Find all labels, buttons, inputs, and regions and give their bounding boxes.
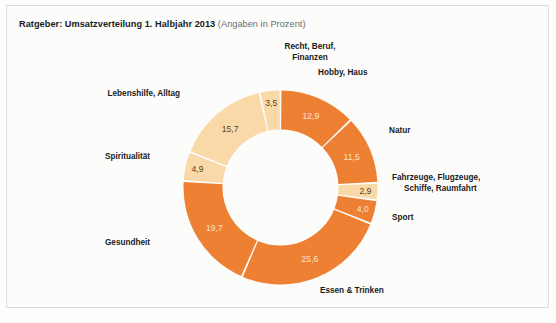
slice-label-spiritualitaet: Spiritualität	[40, 152, 150, 163]
slice-label-natur-line1: Natur	[389, 126, 410, 137]
slice-label-spiritualitaet-line1: Spiritualität	[40, 152, 150, 163]
slice-value-label: 25,6	[302, 254, 319, 264]
slice-value-label: 4,9	[192, 164, 204, 174]
donut-hole	[223, 130, 338, 245]
slice-label-natur: Natur	[389, 126, 410, 137]
slice-label-sport-line1: Sport	[392, 213, 413, 224]
slice-label-hobby-haus: Hobby, Haus	[318, 68, 367, 79]
slice-label-essen-line1: Essen & Trinken	[320, 286, 384, 297]
slice-value-label: 11,5	[344, 152, 360, 162]
slice-value-label: 12,9	[302, 111, 319, 121]
slice-value-label: 19,7	[206, 223, 223, 233]
chart-page: Ratgeber: Umsatzverteilung 1. Halbjahr 2…	[0, 0, 556, 323]
slice-label-essen: Essen & Trinken	[320, 286, 384, 297]
slice-value-label: 2,9	[359, 186, 371, 196]
slice-value-label: 15,7	[222, 124, 239, 134]
slice-label-gesundheit: Gesundheit	[40, 238, 150, 249]
slice-label-fahrzeuge-line2: Schiffe, Raumfahrt	[392, 184, 480, 195]
slice-label-sport: Sport	[392, 213, 413, 224]
slice-value-label: 3,5	[265, 98, 277, 108]
slice-label-fahrzeuge-line1: Fahrzeuge, Flugzeuge,	[392, 173, 480, 184]
donut-slices	[183, 91, 377, 285]
donut-chart: 12,911,52,94,025,619,74,915,73,5 Recht, …	[0, 0, 556, 323]
slice-label-recht-line1: Recht, Beruf,	[250, 42, 370, 53]
slice-label-recht-line2: Finanzen	[250, 53, 370, 64]
slice-label-hobby-haus-line1: Hobby, Haus	[318, 68, 367, 79]
slice-label-lebenshilfe: Lebenshilfe, Alltag	[30, 89, 180, 100]
slice-label-gesundheit-line1: Gesundheit	[40, 238, 150, 249]
slice-value-label: 4,0	[357, 204, 369, 214]
slice-label-recht: Recht, Beruf, Finanzen	[250, 42, 370, 63]
slice-label-lebenshilfe-line1: Lebenshilfe, Alltag	[30, 89, 180, 100]
slice-label-fahrzeuge: Fahrzeuge, Flugzeuge, Schiffe, Raumfahrt	[392, 173, 480, 194]
